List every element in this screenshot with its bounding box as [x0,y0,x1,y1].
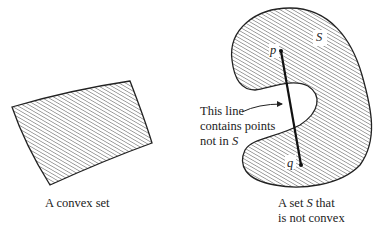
annotation-line-3: not in S [200,134,238,149]
convex-set-shape [12,81,152,185]
annotation-line-2: contains points [200,119,275,134]
caption-text-suffix: that [313,196,335,210]
caption-text: A set [278,196,306,210]
point-p-label: p [270,43,276,58]
convexity-figure: S p q This line contains points not in S… [0,0,385,231]
annotation-text: not in [200,134,232,148]
point-q-marker [299,163,303,167]
nonconvex-caption-line-2: is not convex [278,211,345,226]
annotation-arrow [242,104,282,112]
nonconvex-set-shape [232,8,372,187]
point-p-marker [279,49,283,53]
convex-caption: A convex set [45,196,110,211]
annotation-line-1: This line [200,104,244,119]
nonconvex-caption-line-1: A set S that [278,196,335,211]
point-q-label: q [287,156,293,171]
annotation-set-name: S [232,134,238,148]
set-s-label: S [316,30,322,45]
